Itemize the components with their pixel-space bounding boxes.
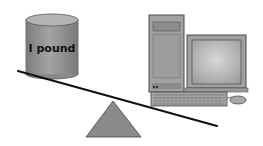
weight-cylinder: I pound <box>26 14 78 79</box>
fulcrum-triangle <box>86 101 141 137</box>
weight-label: I pound <box>29 42 76 55</box>
computer-monitor <box>185 35 248 92</box>
computer-tower <box>149 15 184 92</box>
computer-mouse <box>227 96 246 104</box>
computer-keyboard <box>151 92 227 106</box>
balance-diagram: I pound <box>0 0 263 146</box>
